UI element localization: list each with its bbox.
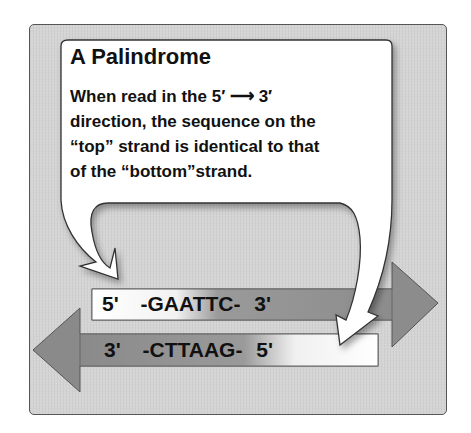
- description-line-3: “top” strand is identical to that: [70, 134, 390, 159]
- description-line-4: of the “bottom”strand.: [70, 159, 390, 184]
- top-strand-label: 5' -GAATTC- 3': [102, 292, 271, 316]
- callout-description: When read in the 5′ ⟶ 3′ direction, the …: [70, 84, 390, 184]
- top-strand-5prime: 5': [102, 292, 119, 316]
- bottom-strand-label: 3' -CTTAAG- 5': [104, 338, 273, 362]
- description-line-2: direction, the sequence on the: [70, 109, 390, 134]
- top-strand-3prime: 3': [254, 292, 271, 316]
- bottom-strand-3prime: 3': [104, 338, 121, 362]
- callout-title: A Palindrome: [70, 44, 211, 70]
- description-line-1: When read in the 5′ ⟶ 3′: [70, 84, 390, 109]
- bottom-strand-sequence: -CTTAAG-: [143, 338, 243, 362]
- top-strand-sequence: -GAATTC-: [141, 292, 241, 316]
- bottom-strand-5prime: 5': [256, 338, 273, 362]
